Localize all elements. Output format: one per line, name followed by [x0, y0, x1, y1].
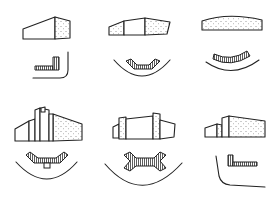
panel-5: [105, 113, 182, 185]
massing-5: [113, 113, 175, 139]
panel-3: [202, 16, 262, 70]
plan-4: [26, 152, 68, 168]
ground-line-6: [216, 156, 265, 187]
panel-2: [109, 18, 170, 76]
massing-1: [23, 17, 70, 39]
plan-1: [35, 57, 59, 70]
plan-3: [213, 51, 250, 63]
massing-6: [205, 116, 265, 137]
plan-5: [124, 152, 166, 171]
massing-3: [202, 16, 262, 30]
ground-line-1: [33, 52, 68, 78]
building-diagram: [0, 0, 280, 204]
panel-6: [205, 116, 265, 187]
massing-4: [15, 107, 82, 141]
panel-4: [15, 107, 82, 179]
panel-1: [23, 17, 70, 78]
diagram-canvas: [0, 0, 280, 204]
massing-2: [109, 18, 170, 35]
plan-2: [126, 59, 160, 69]
plan-6: [228, 155, 257, 166]
entry-block: [44, 163, 50, 168]
